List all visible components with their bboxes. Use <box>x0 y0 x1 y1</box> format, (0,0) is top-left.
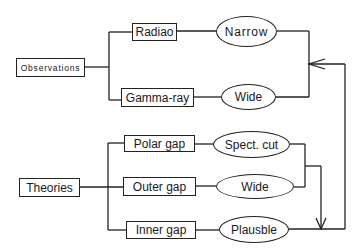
outer-gap-node: Outer gap <box>123 177 196 196</box>
observations-node: Observations <box>16 58 85 77</box>
wide-theory-result-ellipse: Wide <box>216 174 294 199</box>
narrow-result-ellipse: Narrow <box>216 16 277 47</box>
gamma-ray-node: Gamma-ray <box>121 88 194 107</box>
inner-gap-node: Inner gap <box>126 221 196 239</box>
connector-lines <box>0 0 362 252</box>
polar-gap-node: Polar gap <box>124 135 195 152</box>
plausible-result-ellipse: Plausble <box>219 216 289 243</box>
spect-cut-result-ellipse: Spect. cut <box>213 131 290 158</box>
radio-node: Radiao <box>132 23 177 41</box>
wide-result-ellipse: Wide <box>221 84 276 110</box>
theories-node: Theories <box>19 178 80 197</box>
